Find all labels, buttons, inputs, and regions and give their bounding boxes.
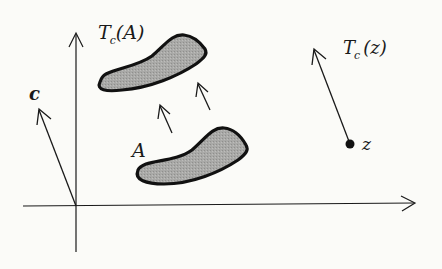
label-original-set: A xyxy=(130,139,146,161)
label-vector-c: c xyxy=(29,83,40,104)
x-axis xyxy=(23,203,414,206)
diagram-svg: Tc(A) A c Tc(z) z xyxy=(0,0,442,269)
arrowhead-icon xyxy=(158,105,170,119)
label-translated-set: Tc(A) xyxy=(98,21,144,47)
translation-arrows xyxy=(158,83,210,133)
translation-arrow xyxy=(158,105,172,133)
label-translated-point: Tc(z) xyxy=(343,37,387,62)
label-point-z: z xyxy=(361,134,372,154)
point-z-translation xyxy=(312,49,350,144)
translation-arrow xyxy=(196,83,210,110)
original-set-blob xyxy=(137,128,247,184)
point-z xyxy=(346,140,355,149)
arrowhead-icon xyxy=(196,83,208,97)
vector-c xyxy=(37,109,76,206)
translation-diagram: Tc(A) A c Tc(z) z xyxy=(0,0,442,269)
